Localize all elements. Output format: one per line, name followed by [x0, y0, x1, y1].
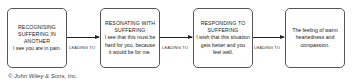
node-text: I wish that this situation gets better a…	[196, 34, 250, 56]
arrow-3	[253, 37, 284, 38]
arrow-1	[67, 37, 99, 38]
arrow-2	[160, 37, 192, 38]
node-compassion: The feeling of warm heartedness and comp…	[285, 8, 345, 68]
node-text: The feeling of warm heartedness and comp…	[288, 27, 342, 49]
node-resonating-with-suffering: RESONATING WITH SUFFERING I see that thi…	[100, 8, 160, 68]
copyright-notice: © John Wiley & Sons, Inc.	[8, 73, 77, 79]
edge-label-2: LEADING TO	[162, 45, 188, 50]
node-responding-to-suffering: RESPONDING TO SUFFERING I wish that this…	[193, 8, 253, 68]
node-heading: RESONATING WITH SUFFERING	[103, 20, 157, 34]
node-heading: RESPONDING TO SUFFERING	[196, 20, 250, 34]
edge-label-3: LEADING TO	[254, 45, 280, 50]
edge-label-1: LEADING TO	[69, 45, 95, 50]
node-text: I see you are in pain.	[13, 45, 61, 52]
node-recognising-suffering: RECOGNISING SUFFERING IN ANOTHER I see y…	[7, 8, 67, 68]
node-text: I see that this must be hard for you, be…	[103, 34, 157, 56]
node-heading: RECOGNISING SUFFERING IN ANOTHER	[10, 24, 64, 46]
